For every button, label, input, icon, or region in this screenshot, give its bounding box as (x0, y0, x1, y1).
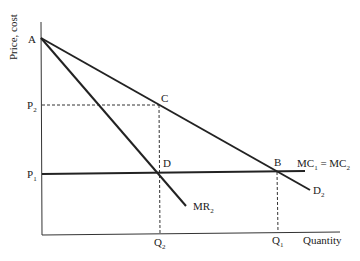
point-a-label: A (28, 33, 36, 45)
mc-line (42, 171, 305, 174)
q1-guide-line (277, 172, 278, 232)
y-axis (41, 22, 42, 235)
q2-label: Q2 (154, 236, 166, 251)
point-b-label: B (274, 156, 281, 168)
x-axis-label: Quantity (303, 234, 342, 246)
x-axis (42, 232, 340, 235)
p1-label: P1 (27, 168, 37, 183)
mc-label: MC1 = MC2 (297, 157, 350, 172)
q2-guide-line (159, 105, 160, 234)
demand-label: D2 (313, 184, 325, 199)
mr-label: MR2 (193, 200, 214, 215)
point-c-label: C (161, 92, 168, 104)
price-discrimination-diagram: Price, cost A C D B P2 P1 Q2 Q1 Quantity… (0, 0, 360, 261)
q1-label: Q1 (272, 234, 284, 249)
marginal-revenue-curve (41, 38, 186, 206)
point-d-label: D (163, 157, 171, 169)
y-axis-label: Price, cost (7, 14, 19, 60)
demand-curve (41, 38, 310, 190)
p2-label: P2 (27, 99, 37, 114)
